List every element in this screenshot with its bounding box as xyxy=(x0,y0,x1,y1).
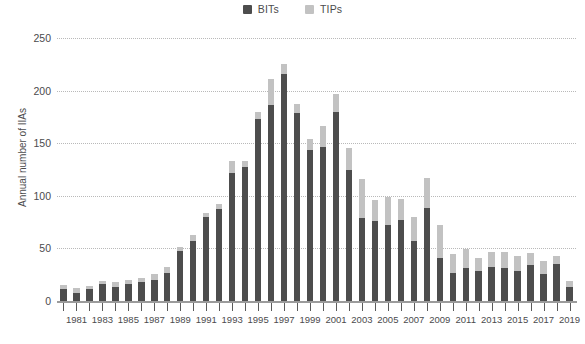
x-axis-tick xyxy=(63,303,64,311)
x-axis-tick xyxy=(297,303,298,311)
y-axis-label-250: 250 xyxy=(17,33,51,44)
bar-group xyxy=(540,261,546,301)
legend-item-bits: BITs xyxy=(243,4,279,15)
bar-segment-tips xyxy=(514,256,520,271)
bar-group xyxy=(488,252,494,301)
x-axis-tick xyxy=(219,303,220,311)
bar-segment-tips xyxy=(281,64,287,73)
x-axis-tick xyxy=(401,303,402,311)
x-axis-tick xyxy=(557,303,558,311)
bar-segment-bits xyxy=(514,271,520,302)
bar-segment-tips xyxy=(307,139,313,150)
bar-group xyxy=(151,274,157,301)
bar-segment-bits xyxy=(488,267,494,301)
x-axis-tick xyxy=(505,303,506,311)
bar-group xyxy=(553,256,559,301)
bar-group xyxy=(333,94,339,301)
x-axis-tick xyxy=(362,303,363,311)
bar-group xyxy=(242,161,248,301)
bar-group xyxy=(372,200,378,301)
legend-label-bits: BITs xyxy=(258,4,279,15)
bar-segment-bits xyxy=(501,268,507,301)
x-axis-tick xyxy=(193,303,194,311)
x-axis-tick xyxy=(466,303,467,311)
x-axis-tick xyxy=(375,303,376,311)
bar-segment-bits xyxy=(398,220,404,301)
legend-swatch-tips xyxy=(305,5,314,14)
bar-segment-bits xyxy=(553,264,559,301)
bar-group xyxy=(268,79,274,301)
bar-group xyxy=(566,281,572,301)
bar-segment-bits xyxy=(359,218,365,301)
bar-group xyxy=(411,217,417,301)
bar-segment-tips xyxy=(527,253,533,266)
iia-bar-chart: BITs TIPs Annual number of IIAs 05010015… xyxy=(0,0,585,344)
bar-segment-bits xyxy=(385,225,391,301)
x-axis-tick xyxy=(570,303,571,311)
bar-segment-tips xyxy=(385,197,391,225)
x-axis-tick xyxy=(102,303,103,311)
bar-segment-bits xyxy=(164,273,170,301)
bar-segment-bits xyxy=(60,289,66,301)
x-axis-tick xyxy=(336,303,337,311)
x-axis-label-2019: 2019 xyxy=(550,315,585,325)
x-axis-tick xyxy=(310,303,311,311)
bar-segment-tips xyxy=(255,112,261,119)
x-axis-baseline xyxy=(57,301,577,303)
bar-segment-tips xyxy=(475,258,481,271)
x-axis-tick xyxy=(427,303,428,311)
y-axis-label-150: 150 xyxy=(17,138,51,149)
bar-segment-tips xyxy=(540,261,546,274)
x-axis-tick xyxy=(414,303,415,311)
bar-segment-bits xyxy=(86,289,92,301)
bar-segment-bits xyxy=(73,293,79,301)
bar-group xyxy=(359,179,365,301)
x-axis-tick xyxy=(271,303,272,311)
bar-group xyxy=(424,178,430,301)
bar-segment-bits xyxy=(463,268,469,301)
y-axis-label-200: 200 xyxy=(17,86,51,97)
bar-group xyxy=(138,278,144,301)
bar-segment-tips xyxy=(359,179,365,218)
bar-segment-bits xyxy=(190,241,196,301)
x-axis-tick xyxy=(544,303,545,311)
bar-segment-tips xyxy=(320,126,326,147)
y-axis-label-50: 50 xyxy=(17,243,51,254)
x-axis-tick xyxy=(479,303,480,311)
bar-segment-bits xyxy=(294,113,300,301)
bar-segment-bits xyxy=(424,208,430,301)
y-axis-label-0: 0 xyxy=(17,296,51,307)
bar-segment-bits xyxy=(333,112,339,301)
bar-group xyxy=(255,112,261,301)
bar-group xyxy=(437,225,443,301)
bar-segment-tips xyxy=(553,256,559,264)
bar-group xyxy=(73,288,79,301)
bar-series-container xyxy=(57,38,576,301)
bar-group xyxy=(216,204,222,301)
x-axis-tick xyxy=(453,303,454,311)
legend-item-tips: TIPs xyxy=(305,4,342,15)
bar-segment-bits xyxy=(566,287,572,301)
bar-group xyxy=(307,139,313,301)
bar-segment-bits xyxy=(437,258,443,301)
bar-segment-bits xyxy=(255,119,261,301)
bar-segment-bits xyxy=(307,150,313,301)
x-axis-tick xyxy=(284,303,285,311)
bar-group xyxy=(203,213,209,301)
chart-legend: BITs TIPs xyxy=(0,4,585,15)
bar-segment-tips xyxy=(229,161,235,173)
y-axis-title: Annual number of IIAs xyxy=(17,78,28,238)
bar-group xyxy=(125,280,131,301)
bar-segment-bits xyxy=(216,209,222,301)
bar-group xyxy=(281,64,287,301)
legend-swatch-bits xyxy=(243,5,252,14)
bar-segment-bits xyxy=(540,274,546,301)
bar-segment-bits xyxy=(411,241,417,301)
bar-segment-tips xyxy=(437,225,443,258)
bar-segment-bits xyxy=(268,105,274,301)
x-axis-tick xyxy=(232,303,233,311)
x-axis-tick xyxy=(89,303,90,311)
bar-segment-tips xyxy=(501,252,507,269)
bar-group xyxy=(527,253,533,301)
bar-segment-bits xyxy=(151,280,157,301)
